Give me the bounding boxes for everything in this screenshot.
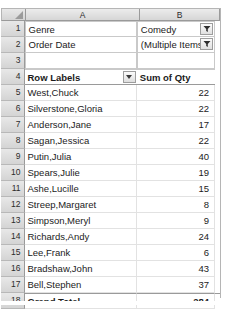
row-number-6[interactable]: 6 xyxy=(1,101,25,117)
cell-a15-row-label[interactable]: Lee,Frank xyxy=(25,245,137,261)
row-number-2[interactable]: 2 xyxy=(1,37,25,53)
genre-filter-value: Comedy xyxy=(141,24,176,35)
cell-b7-qty-value[interactable]: 17 xyxy=(137,117,215,133)
table-row: 8Sagan,Jessica22 xyxy=(1,133,221,149)
cell-b10-qty-value[interactable]: 19 xyxy=(137,165,215,181)
cell-b15-qty-value[interactable]: 6 xyxy=(137,245,215,261)
cell-b8-qty-value[interactable]: 22 xyxy=(137,133,215,149)
cell-b2-order-date-value[interactable]: (Multiple Items) xyxy=(137,37,215,53)
filter-funnel-icon xyxy=(203,40,211,48)
cell-b17-qty-value[interactable]: 37 xyxy=(137,277,215,293)
select-all-corner[interactable] xyxy=(2,9,26,20)
cell-b1-genre-value[interactable]: Comedy xyxy=(137,21,215,37)
row-labels-dropdown-button[interactable] xyxy=(123,71,136,83)
order-date-filter-button[interactable] xyxy=(200,38,213,50)
table-row: 10Spears,Julie19 xyxy=(1,165,221,181)
row-number-9[interactable]: 9 xyxy=(1,149,25,165)
cell-b6-qty-value[interactable]: 22 xyxy=(137,101,215,117)
cell-a13-row-label[interactable]: Simpson,Meryl xyxy=(25,213,137,229)
cell-a4-row-labels-header[interactable]: Row Labels xyxy=(25,69,137,85)
sheet-row-4: 4 Row Labels Sum of Qty xyxy=(1,69,221,85)
row-number-13[interactable]: 13 xyxy=(1,213,25,229)
cell-b5-qty-value[interactable]: 22 xyxy=(137,85,215,101)
table-row: 11Ashe,Lucille15 xyxy=(1,181,221,197)
row-number-17[interactable]: 17 xyxy=(1,277,25,293)
cell-b3-empty[interactable] xyxy=(137,53,215,69)
row-number-14[interactable]: 14 xyxy=(1,229,25,245)
sheet-bottom-edge xyxy=(1,301,221,305)
row-number-7[interactable]: 7 xyxy=(1,117,25,133)
table-row: 13Simpson,Meryl9 xyxy=(1,213,221,229)
grid-body: 1 Genre Comedy 2 Order Date (Multiple It… xyxy=(1,21,221,309)
row-number-10[interactable]: 10 xyxy=(1,165,25,181)
pivot-data-rows: 5West,Chuck226Silverstone,Gloria227Ander… xyxy=(1,85,221,293)
cell-a7-row-label[interactable]: Anderson,Jane xyxy=(25,117,137,133)
cell-a6-row-label[interactable]: Silverstone,Gloria xyxy=(25,101,137,117)
row-number-12[interactable]: 12 xyxy=(1,197,25,213)
table-row: 12Streep,Margaret8 xyxy=(1,197,221,213)
table-row: 17Bell,Stephen37 xyxy=(1,277,221,293)
table-row: 5West,Chuck22 xyxy=(1,85,221,101)
sheet-row-2: 2 Order Date (Multiple Items) xyxy=(1,37,221,53)
table-row: 16Bradshaw,John43 xyxy=(1,261,221,277)
cell-a9-row-label[interactable]: Putin,Julia xyxy=(25,149,137,165)
cell-a1-genre-label[interactable]: Genre xyxy=(25,21,137,37)
cell-b9-qty-value[interactable]: 40 xyxy=(137,149,215,165)
column-header-row: A B xyxy=(1,8,221,21)
genre-filter-button[interactable] xyxy=(200,23,213,35)
row-labels-header-text: Row Labels xyxy=(28,72,81,83)
table-row: 7Anderson,Jane17 xyxy=(1,117,221,133)
row-number-4[interactable]: 4 xyxy=(1,69,25,85)
cell-a3-empty[interactable] xyxy=(25,53,137,69)
cell-a8-row-label[interactable]: Sagan,Jessica xyxy=(25,133,137,149)
table-row: 14Richards,Andy24 xyxy=(1,229,221,245)
cell-b4-sum-of-qty-header[interactable]: Sum of Qty xyxy=(137,69,215,85)
cell-a5-row-label[interactable]: West,Chuck xyxy=(25,85,137,101)
row-number-16[interactable]: 16 xyxy=(1,261,25,277)
cell-a12-row-label[interactable]: Streep,Margaret xyxy=(25,197,137,213)
cell-a14-row-label[interactable]: Richards,Andy xyxy=(25,229,137,245)
row-number-15[interactable]: 15 xyxy=(1,245,25,261)
sheet-row-1: 1 Genre Comedy xyxy=(1,21,221,37)
cell-b14-qty-value[interactable]: 24 xyxy=(137,229,215,245)
column-header-b[interactable]: B xyxy=(140,9,220,20)
row-number-5[interactable]: 5 xyxy=(1,85,25,101)
cell-a16-row-label[interactable]: Bradshaw,John xyxy=(25,261,137,277)
cell-b13-qty-value[interactable]: 9 xyxy=(137,213,215,229)
cell-a2-order-date-label[interactable]: Order Date xyxy=(25,37,137,53)
sheet-right-edge xyxy=(220,8,221,298)
table-row: 15Lee,Frank6 xyxy=(1,245,221,261)
row-number-1[interactable]: 1 xyxy=(1,21,25,37)
cell-a11-row-label[interactable]: Ashe,Lucille xyxy=(25,181,137,197)
cell-b16-qty-value[interactable]: 43 xyxy=(137,261,215,277)
select-all-triangle-icon xyxy=(15,11,23,19)
column-header-a[interactable]: A xyxy=(26,9,140,20)
sheet-row-3: 3 xyxy=(1,53,221,69)
row-number-8[interactable]: 8 xyxy=(1,133,25,149)
row-number-11[interactable]: 11 xyxy=(1,181,25,197)
row-number-3[interactable]: 3 xyxy=(1,53,25,69)
chevron-down-icon xyxy=(126,75,132,79)
table-row: 9Putin,Julia40 xyxy=(1,149,221,165)
cell-b12-qty-value[interactable]: 8 xyxy=(137,197,215,213)
cell-a17-row-label[interactable]: Bell,Stephen xyxy=(25,277,137,293)
filter-funnel-icon xyxy=(203,25,211,33)
cell-a10-row-label[interactable]: Spears,Julie xyxy=(25,165,137,181)
table-row: 6Silverstone,Gloria22 xyxy=(1,101,221,117)
cell-b11-qty-value[interactable]: 15 xyxy=(137,181,215,197)
order-date-filter-value: (Multiple Items) xyxy=(141,39,206,50)
